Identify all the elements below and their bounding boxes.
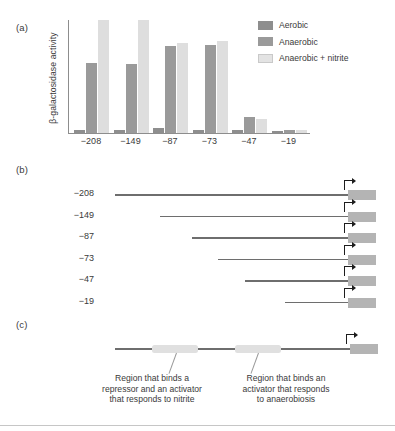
transcription-start-arrow-icon — [344, 223, 357, 233]
legend-swatch-icon — [258, 37, 273, 46]
bar — [114, 130, 125, 133]
leader-line-right — [251, 353, 259, 374]
transcription-start-arrow-icon — [344, 180, 357, 190]
caption-line: Region that binds a — [88, 373, 216, 384]
legend-label: Anaerobic — [279, 37, 318, 47]
panel-a-label: (a) — [16, 22, 28, 33]
bar — [138, 20, 149, 133]
bar — [165, 46, 176, 133]
x-tick-label: −87 — [148, 136, 192, 146]
bar — [256, 119, 267, 133]
figure-root: (a) β-galactosidase activity −208−149−87… — [0, 0, 395, 431]
x-tick-label: −73 — [188, 136, 232, 146]
legend-swatch-icon — [258, 54, 273, 63]
caption-line: Region that binds an — [222, 373, 350, 384]
panel-a-bar-chart: (a) β-galactosidase activity −208−149−87… — [0, 0, 395, 160]
construct-label: −73 — [48, 253, 94, 263]
promoter-line — [245, 280, 348, 282]
construct-label: −47 — [48, 274, 94, 284]
bar-group — [114, 20, 149, 133]
legend-item-aerobic: Aerobic — [258, 20, 349, 30]
construct-row: −149 — [0, 206, 395, 228]
bar — [193, 130, 204, 133]
panel-b-deletion-constructs: (b) −208−149−87−73−47−19 — [0, 160, 395, 315]
bar — [74, 130, 85, 133]
bar — [153, 128, 164, 133]
caption-line: repressor and an activator — [88, 384, 216, 395]
construct-label: −87 — [48, 231, 94, 241]
construct-row: −87 — [0, 227, 395, 249]
caption-nitrite-region: Region that binds a repressor and an act… — [88, 373, 216, 405]
x-tick-label: −149 — [109, 136, 153, 146]
bar-group — [272, 130, 307, 133]
promoter-line — [285, 302, 348, 304]
construct-row: −208 — [0, 184, 395, 206]
bar — [232, 130, 243, 133]
panel-c-promoter-map: (c) Region that binds a repressor and an… — [0, 315, 395, 431]
bar — [98, 20, 109, 133]
chart-legend: Aerobic Anaerobic Anaerobic + nitrite — [258, 20, 349, 70]
figure-bottom-rule — [0, 425, 395, 426]
caption-line: to anaerobiosis — [222, 394, 350, 405]
promoter-line — [160, 216, 348, 218]
bar — [284, 130, 295, 133]
legend-swatch-icon — [258, 21, 273, 30]
gene-box — [350, 344, 378, 354]
bar — [86, 63, 97, 133]
binding-region-nitrite — [152, 345, 198, 353]
construct-label: −208 — [48, 188, 94, 198]
caption-anaerobiosis-region: Region that binds an activator that resp… — [222, 373, 350, 405]
promoter-line — [115, 194, 348, 196]
construct-row: −73 — [0, 249, 395, 271]
x-tick-label: −19 — [267, 136, 311, 146]
legend-label: Aerobic — [279, 20, 308, 30]
bar — [205, 45, 216, 133]
caption-line: activator that responds — [222, 384, 350, 395]
construct-label: −149 — [48, 210, 94, 220]
construct-row: −47 — [0, 270, 395, 292]
bar — [217, 41, 228, 133]
legend-item-anaerobic-nitrite: Anaerobic + nitrite — [258, 53, 349, 63]
bar — [126, 64, 137, 133]
leader-line-left — [169, 353, 177, 374]
bar-group — [193, 41, 228, 133]
panel-c-label: (c) — [16, 319, 28, 330]
transcription-start-arrow-icon — [344, 266, 357, 276]
construct-label: −19 — [48, 296, 94, 306]
bar-group — [153, 43, 188, 133]
gene-box — [348, 298, 376, 308]
bar — [272, 131, 283, 133]
x-axis-line — [68, 133, 310, 134]
legend-label: Anaerobic + nitrite — [279, 53, 349, 63]
x-tick-label: −47 — [227, 136, 271, 146]
caption-line: that responds to nitrite — [88, 394, 216, 405]
construct-row: −19 — [0, 292, 395, 314]
bar-group — [74, 20, 109, 133]
bar — [177, 43, 188, 133]
transcription-start-arrow-icon — [344, 245, 357, 255]
transcription-start-arrow-icon — [344, 288, 357, 298]
bar-group — [232, 117, 267, 133]
legend-item-anaerobic: Anaerobic — [258, 37, 349, 47]
binding-region-anaerobiosis — [235, 345, 281, 353]
transcription-start-arrow-icon — [344, 202, 357, 212]
transcription-start-arrow-icon — [346, 334, 359, 344]
bar — [296, 130, 307, 133]
bar — [244, 117, 255, 133]
panel-b-label: (b) — [16, 164, 28, 175]
y-axis-label: β-galactosidase activity — [46, 22, 60, 134]
promoter-line — [218, 259, 348, 261]
promoter-line — [192, 237, 348, 239]
x-tick-label: −208 — [69, 136, 113, 146]
